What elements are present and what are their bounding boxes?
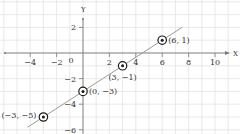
- data-point: (6, 1): [158, 36, 190, 45]
- x-tick-label: 4: [133, 58, 138, 67]
- point-dot-icon: [42, 116, 45, 119]
- x-tick-label: 2: [107, 58, 112, 67]
- x-tick-label: 8: [186, 58, 191, 67]
- x-tick-label: −2: [51, 58, 63, 67]
- y-tick-label: −4: [64, 100, 76, 109]
- x-axis-label: X: [233, 50, 238, 58]
- data-point: (0, −3): [79, 87, 117, 96]
- point-label: (6, 1): [168, 36, 190, 45]
- point-dot-icon: [121, 64, 124, 67]
- x-tick-label: −4: [24, 58, 36, 67]
- point-label: (3, −1): [108, 73, 136, 82]
- y-axis-label: Y: [80, 6, 86, 14]
- point-dot-icon: [161, 39, 164, 42]
- point-label: (−3, −5): [1, 111, 36, 120]
- x-axis-arrow-icon: [225, 51, 230, 55]
- point-dot-icon: [82, 90, 85, 93]
- y-tick-label: −2: [64, 75, 76, 84]
- origin-label: 0: [68, 56, 73, 65]
- x-axis-left-end-icon: [4, 52, 6, 54]
- y-axis-top-end-icon: [82, 18, 84, 20]
- y-tick-label: 2: [71, 23, 76, 32]
- data-point: (−3, −5): [1, 111, 47, 121]
- x-tick-label: 10: [210, 58, 220, 67]
- x-tick-label: 6: [160, 58, 165, 67]
- point-label: (0, −3): [89, 87, 117, 96]
- coordinate-plane-chart: XY −4−22468102−2−4−60 (6, 1)(3, −1)(0, −…: [0, 0, 240, 134]
- y-tick-label: −6: [64, 126, 76, 134]
